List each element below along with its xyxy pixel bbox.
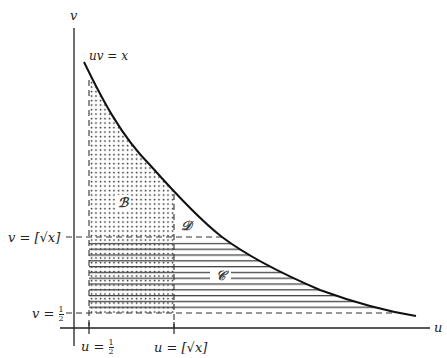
region-c-hatched — [89, 243, 419, 311]
u-half-label: u = 12 — [81, 339, 114, 356]
u-axis-label: u — [434, 321, 442, 334]
u-half-fraction: 12 — [109, 339, 114, 356]
v-axis-label: v — [70, 9, 77, 22]
v-sqrt-x-label: v = [√x] — [8, 231, 60, 244]
region-d-label: 𝒟 — [179, 219, 193, 232]
region-c-label: 𝒞 — [210, 268, 231, 283]
v-half-fraction: 12 — [59, 306, 64, 323]
hyperbola-lattice-diagram — [0, 0, 447, 358]
curve-label: uv = x — [89, 50, 128, 62]
u-half-text: u = — [81, 339, 109, 354]
v-half-text: v = — [32, 306, 59, 321]
region-b-label: ℬ — [115, 195, 131, 210]
v-half-label: v = 12 — [32, 306, 64, 323]
u-sqrt-x-label: u = [√x] — [154, 341, 207, 354]
